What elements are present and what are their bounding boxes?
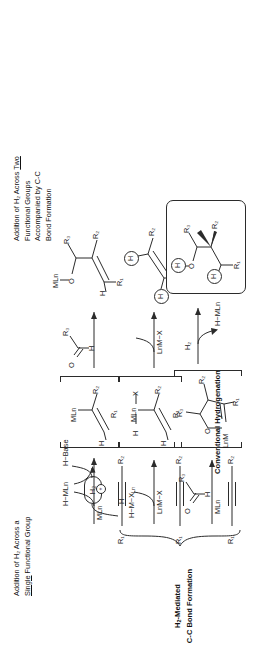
col3-label-r2: R₂ (227, 456, 234, 464)
col1-reagent-lnm-x: LnM−X (156, 490, 163, 514)
col3-product-ch-h: H (207, 269, 222, 284)
col2-int-metal: MLn (70, 408, 77, 422)
col3-arrow2-byproduct: H−MLn (214, 302, 221, 326)
header-left-line1: Addition of H₂ Across a (12, 517, 23, 596)
col2-product-r3: R₃ (63, 236, 70, 244)
header-left-line2: Single Functional Group (23, 517, 34, 596)
col1-product-h2: H (124, 251, 139, 266)
col2-product-mln: MLn (52, 274, 59, 288)
col3-int-metal: LnM (222, 434, 229, 448)
col3-product-o: O (188, 263, 195, 269)
col1-int-vinyl-h: H (160, 441, 167, 446)
col1-product-r2: R₂ (148, 228, 155, 236)
col2-int-vinyl-h: H (98, 441, 105, 446)
header-left-underlined: Single (23, 575, 32, 596)
col2-int-r2: R₂ (92, 386, 99, 394)
col3-bracket-left (174, 442, 242, 448)
col3-int-o: O (204, 428, 211, 434)
col3-product-r3: R₃ (183, 225, 190, 233)
col3-aldehyde-r3: R₃ (178, 474, 185, 482)
col3-product-oh-h: H (171, 258, 186, 273)
col3-aldehyde-o: O (184, 508, 191, 514)
header-right-line1: Addition of H₂ Across Two (12, 156, 23, 241)
col3-aldehyde-h: H (204, 492, 211, 497)
col1-int-x: X (132, 391, 139, 396)
caption-right: H2-Mediated C-C Bond Formation (172, 546, 195, 647)
col1-int-r2: R₂ (154, 386, 161, 394)
header-right-line3: Accompanied by C-C (33, 156, 44, 241)
col2-reagent-cation: MLn (96, 506, 103, 520)
col3-int-r1: R₁ (232, 398, 239, 406)
col2-step1-product: H−MLn (62, 482, 69, 506)
col1-int-metal: MLn (130, 408, 137, 422)
caption-right-line2: C-C Bond Formation (184, 546, 195, 647)
col2-product-r2: R₂ (92, 231, 99, 239)
header-right: Addition of H₂ Across Two Functional Gro… (12, 156, 55, 241)
col2-int-r1: R₁ (110, 410, 117, 418)
col3-int-r3: R₃ (176, 409, 183, 417)
col2-aldehyde-h: H (88, 346, 95, 351)
col1-arrow2-reagent: LnM−X (156, 330, 163, 354)
col2-cation-charge: + (96, 484, 106, 494)
header-right-line2: Functional Groups (23, 156, 34, 241)
header-left: Addition of H₂ Across a Single Functiona… (12, 517, 33, 596)
col1-bracket-left (118, 442, 182, 448)
col3-reagent-metal: MLn (214, 500, 221, 514)
col2-product-r1: R₁ (116, 278, 123, 286)
col3-product-r1: R₁ (233, 261, 240, 269)
header-left-line2-rest: Functional Group (23, 517, 32, 576)
col2-bracket-left (60, 442, 120, 448)
header-right-line1-pre: Addition of H₂ Across (12, 170, 21, 241)
col3-int-r2: R₂ (198, 376, 205, 384)
col1-int-h-metal: H (132, 431, 139, 436)
col2-aldehyde-o: O (68, 362, 75, 368)
col2-product-o: O (68, 278, 75, 284)
col3-arrow2-reagent: H₂ (184, 342, 191, 350)
caption-right-line1: H2-Mediated (172, 546, 184, 647)
col3-product-r2: R₂ (211, 221, 218, 229)
col3-product-box: H H O R₃ R₂ R₁ (166, 200, 246, 294)
col2-aldehyde-r3: R₃ (62, 328, 69, 336)
col2-product-vinyl-h: H (99, 291, 106, 296)
header-right-underlined: Two (12, 156, 21, 170)
